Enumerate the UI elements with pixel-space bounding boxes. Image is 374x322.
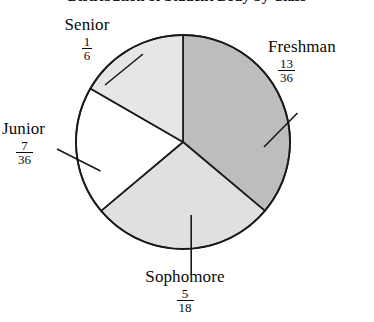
pie-label-junior-fraction: 7 36 — [16, 139, 33, 166]
pie-label-junior-name: Junior — [2, 120, 78, 138]
pie-label-senior-fraction: 1 6 — [82, 35, 93, 62]
fraction-numerator: 7 — [16, 139, 33, 153]
pie-label-sophomore-name: Sophomore — [110, 268, 260, 286]
pie-label-junior: Junior 7 36 — [2, 120, 78, 166]
fraction-denominator: 36 — [16, 153, 33, 166]
pie-label-senior-name: Senior — [44, 16, 130, 34]
pie-label-freshman-fraction-wrap: 13 36 — [268, 56, 372, 84]
fraction-denominator: 18 — [177, 301, 194, 314]
fraction-numerator: 5 — [177, 287, 194, 301]
pie-label-junior-fraction-wrap: 7 36 — [2, 138, 78, 166]
fraction-numerator: 13 — [278, 57, 295, 71]
pie-label-sophomore-fraction: 5 18 — [177, 287, 194, 314]
pie-label-freshman-fraction: 13 36 — [278, 57, 295, 84]
pie-label-sophomore-fraction-wrap: 5 18 — [177, 289, 194, 306]
pie-label-senior-fraction-wrap: 1 6 — [82, 37, 93, 54]
pie-slices-group — [76, 35, 290, 249]
pie-chart-figure: Distribution of Student Body by Class Se… — [0, 0, 374, 322]
pie-label-freshman: Freshman 13 36 — [268, 38, 372, 84]
pie-label-senior: Senior 1 6 — [44, 16, 130, 62]
pie-label-freshman-name: Freshman — [268, 38, 372, 56]
fraction-denominator: 6 — [82, 49, 93, 62]
fraction-numerator: 1 — [82, 35, 93, 49]
fraction-denominator: 36 — [278, 71, 295, 84]
pie-label-sophomore: Sophomore 5 18 — [110, 268, 260, 314]
